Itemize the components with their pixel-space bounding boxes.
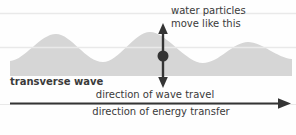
energy-transfer-label: direction of energy transfer (40, 105, 282, 118)
transverse-wave-diagram: water particles move like this transvers… (0, 0, 296, 135)
wave-name-label: transverse wave (10, 75, 103, 88)
particle-motion-label-line1: water particles (171, 4, 246, 17)
wave-travel-label: direction of wave travel (40, 88, 270, 101)
particle-motion-label: water particles move like this (171, 4, 246, 30)
particle-dot-icon (158, 51, 169, 62)
water-wave-shape (10, 32, 292, 76)
particle-motion-label-line2: move like this (171, 17, 246, 30)
oscillation-arrow-icon (158, 23, 169, 88)
oscillation-arrowhead-down (158, 77, 168, 88)
oscillation-arrowhead-up (158, 23, 168, 34)
